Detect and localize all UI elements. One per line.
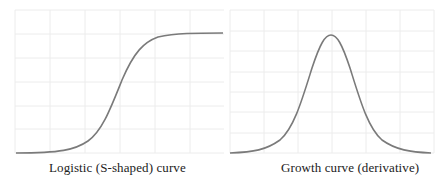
growth-panel: Growth curve (derivative) bbox=[224, 0, 447, 184]
logistic-chart bbox=[0, 0, 224, 160]
grid bbox=[230, 10, 434, 153]
logistic-caption: Logistic (S-shaped) curve bbox=[49, 160, 186, 176]
growth-chart bbox=[224, 0, 447, 160]
grid bbox=[15, 10, 224, 153]
growth-curve bbox=[230, 35, 431, 153]
growth-caption: Growth curve (derivative) bbox=[281, 160, 419, 176]
logistic-panel: Logistic (S-shaped) curve bbox=[0, 0, 224, 184]
